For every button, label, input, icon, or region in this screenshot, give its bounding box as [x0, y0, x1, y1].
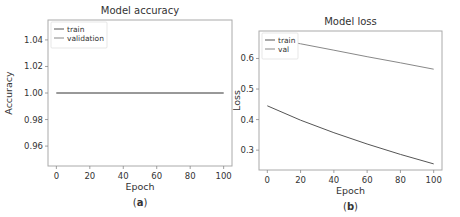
x-axis-label: Epoch [125, 181, 154, 192]
panel-caption: (b) [343, 201, 358, 212]
legend: trainvalidation [51, 22, 107, 48]
x-tick-label: 60 [362, 175, 373, 185]
y-tick-label: 1.02 [24, 61, 43, 71]
x-tick-label: 20 [295, 175, 306, 185]
figure: Model accuracy0204060801000.960.981.001.… [0, 0, 460, 217]
y-tick-label: 1.04 [24, 35, 43, 45]
y-axis-label: Accuracy [3, 71, 14, 115]
x-tick-label: 80 [185, 171, 196, 181]
y-axis-label: Loss [231, 90, 242, 111]
y-tick-label: 0.6 [240, 53, 254, 63]
x-tick-label: 80 [395, 175, 406, 185]
panel-caption: (a) [133, 197, 148, 208]
legend-entry: val [278, 45, 289, 54]
chart-title: Model accuracy [101, 5, 179, 16]
x-tick-label: 40 [118, 171, 129, 181]
y-tick-label: 0.3 [240, 145, 254, 155]
x-axis-label: Epoch [336, 185, 365, 196]
chart-a: Model accuracy0204060801000.960.981.001.… [3, 5, 232, 208]
chart-title: Model loss [324, 16, 377, 27]
x-tick-label: 100 [216, 171, 232, 181]
legend-entry: train [67, 25, 85, 34]
y-tick-label: 1.00 [24, 88, 43, 98]
y-tick-label: 0.98 [24, 115, 43, 125]
y-tick-label: 0.96 [24, 141, 43, 151]
x-tick-label: 40 [328, 175, 339, 185]
legend-entry: validation [67, 34, 104, 43]
x-tick-label: 0 [265, 175, 270, 185]
x-tick-label: 20 [84, 171, 95, 181]
legend-entry: train [278, 36, 296, 45]
y-tick-label: 0.5 [240, 84, 254, 94]
x-tick-label: 100 [426, 175, 442, 185]
chart-b: Model loss0204060801000.30.40.50.6EpochL… [231, 16, 442, 212]
x-tick-label: 60 [151, 171, 162, 181]
y-tick-label: 0.4 [240, 115, 254, 125]
x-tick-label: 0 [54, 171, 59, 181]
legend: trainval [262, 33, 298, 59]
